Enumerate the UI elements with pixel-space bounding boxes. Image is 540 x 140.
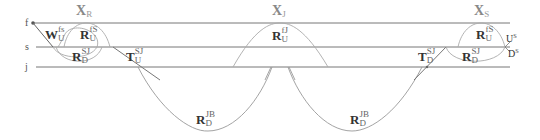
label-base: T bbox=[126, 49, 135, 64]
label-r-sj-d-right: RSJD bbox=[462, 50, 471, 63]
label-r-sj-d-left: RSJD bbox=[72, 50, 81, 63]
label-r-jb-d-right: RJBD bbox=[350, 113, 359, 126]
label-w-fs-u: WfsU bbox=[45, 28, 58, 41]
label-sup: s bbox=[513, 31, 517, 40]
label-sub: U bbox=[485, 34, 492, 43]
label-u-s: Us bbox=[506, 34, 513, 44]
label-base: D bbox=[508, 48, 515, 59]
label-sup: s bbox=[515, 46, 519, 55]
header-xs: XS bbox=[474, 4, 484, 18]
label-base: R bbox=[196, 112, 205, 127]
label-r-fj-u: RfJU bbox=[272, 29, 281, 42]
header-xr: XR bbox=[76, 4, 86, 18]
diagram-canvas bbox=[0, 0, 540, 140]
t-d-dot bbox=[426, 66, 428, 68]
label-sub: D bbox=[81, 56, 88, 65]
label-sub: D bbox=[205, 119, 212, 128]
header-xr-base: X bbox=[76, 3, 86, 18]
label-sub: D bbox=[359, 119, 366, 128]
label-base: R bbox=[462, 49, 471, 64]
label-r-jb-d-left: RJBD bbox=[196, 113, 205, 126]
line-label-s: s bbox=[25, 41, 29, 52]
label-base: R bbox=[476, 27, 485, 42]
line-label-j: j bbox=[25, 61, 28, 72]
label-r-fs-u-left: RfSU bbox=[80, 28, 89, 41]
label-base: R bbox=[80, 27, 89, 42]
line-label-f: f bbox=[25, 17, 28, 28]
label-r-fs-u-right: RfSU bbox=[476, 28, 485, 41]
label-base: U bbox=[506, 33, 513, 44]
label-sub: U bbox=[135, 56, 142, 65]
label-base: R bbox=[350, 112, 359, 127]
label-t-sj-d: TSJD bbox=[418, 50, 427, 63]
label-base: R bbox=[72, 49, 81, 64]
header-xr-sub: R bbox=[86, 10, 92, 19]
center-tick-right bbox=[289, 67, 295, 80]
label-sub: U bbox=[89, 34, 96, 43]
label-base: R bbox=[272, 28, 281, 43]
center-tick-left bbox=[265, 67, 271, 80]
label-d-s: Ds bbox=[508, 49, 515, 59]
label-sub: U bbox=[58, 34, 65, 43]
label-t-sj-u: TSJU bbox=[126, 50, 135, 63]
header-xs-sub: S bbox=[484, 10, 489, 19]
label-base: T bbox=[418, 49, 427, 64]
label-base: W bbox=[45, 27, 58, 42]
header-xs-base: X bbox=[474, 3, 484, 18]
header-xj: XJ bbox=[272, 4, 282, 18]
label-sub: D bbox=[427, 56, 434, 65]
label-sub: U bbox=[281, 35, 288, 44]
header-xj-base: X bbox=[272, 3, 282, 18]
header-xj-sub: J bbox=[282, 10, 286, 19]
label-sub: D bbox=[471, 56, 478, 65]
